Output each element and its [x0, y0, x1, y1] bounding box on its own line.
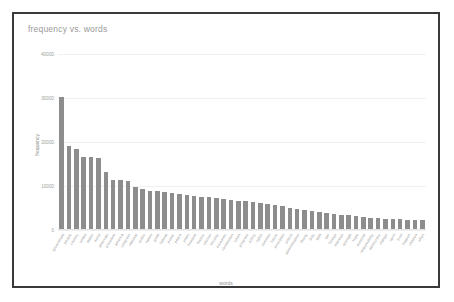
- x-label-slot: support: [404, 231, 411, 275]
- bar[interactable]: [273, 205, 278, 230]
- x-label-slot: children: [411, 231, 418, 275]
- bar[interactable]: [133, 187, 138, 230]
- bar[interactable]: [310, 211, 315, 230]
- x-label-slot: national: [132, 231, 139, 275]
- bar[interactable]: [280, 206, 285, 230]
- chart-card: frequency vs. words 01000020000300004000…: [14, 14, 438, 286]
- x-label-slot: years: [183, 231, 190, 275]
- bar-slot: [301, 54, 308, 230]
- x-axis-tick-label: peace: [174, 233, 183, 244]
- bar-slot: [397, 54, 404, 230]
- chart-frame: frequency vs. words 01000020000300004000…: [12, 12, 440, 288]
- bar[interactable]: [221, 199, 226, 230]
- bar-slot: [235, 54, 242, 230]
- bar[interactable]: [74, 149, 79, 230]
- bar[interactable]: [258, 203, 263, 230]
- bar-slot: [73, 54, 80, 230]
- bar[interactable]: [59, 97, 64, 230]
- x-label-slot: economic: [220, 231, 227, 275]
- bar-slot: [124, 54, 131, 230]
- bar[interactable]: [288, 208, 293, 230]
- bar-slot: [117, 54, 124, 230]
- bar-slot: [227, 54, 234, 230]
- x-axis-tick-label: policy: [248, 233, 257, 243]
- bar[interactable]: [207, 197, 212, 230]
- bar-series: [58, 54, 426, 230]
- bar[interactable]: [354, 216, 359, 230]
- bar[interactable]: [170, 193, 175, 230]
- bar[interactable]: [199, 197, 204, 230]
- x-label-slot: effort: [419, 231, 426, 275]
- bar[interactable]: [229, 200, 234, 230]
- bar-slot: [367, 54, 374, 230]
- bar-slot: [360, 54, 367, 230]
- bar-slot: [102, 54, 109, 230]
- bar[interactable]: [148, 191, 153, 230]
- x-axis-line: [58, 229, 426, 230]
- bar[interactable]: [332, 214, 337, 230]
- bar[interactable]: [67, 146, 72, 230]
- bar[interactable]: [346, 215, 351, 230]
- x-label-slot: congress: [124, 231, 131, 275]
- bar-slot: [139, 54, 146, 230]
- bar[interactable]: [265, 204, 270, 230]
- bar-slot: [168, 54, 175, 230]
- bar[interactable]: [295, 209, 300, 230]
- bar[interactable]: [118, 180, 123, 230]
- bar[interactable]: [96, 158, 101, 230]
- y-axis-tick-label: 20000: [41, 140, 54, 145]
- bar[interactable]: [177, 194, 182, 230]
- bar-slot: [389, 54, 396, 230]
- bar[interactable]: [126, 181, 131, 230]
- bar[interactable]: [81, 157, 86, 230]
- y-axis-title: frequency: [34, 134, 40, 156]
- bar-slot: [308, 54, 315, 230]
- bar-slot: [249, 54, 256, 230]
- x-label-slot: world: [95, 231, 102, 275]
- bar[interactable]: [236, 201, 241, 230]
- bar[interactable]: [243, 201, 248, 230]
- x-label-slot: country: [73, 231, 80, 275]
- bar[interactable]: [339, 215, 344, 230]
- bar-slot: [198, 54, 205, 230]
- bar-slot: [190, 54, 197, 230]
- bar[interactable]: [302, 210, 307, 230]
- x-label-slot: interests: [338, 231, 345, 275]
- x-label-slot: common: [264, 231, 271, 275]
- bar-slot: [271, 54, 278, 230]
- bar-slot: [132, 54, 139, 230]
- bar-slot: [65, 54, 72, 230]
- bar-slot: [176, 54, 183, 230]
- bar-slot: [213, 54, 220, 230]
- bar[interactable]: [111, 180, 116, 230]
- bar[interactable]: [251, 202, 256, 230]
- bar[interactable]: [140, 189, 145, 230]
- bar[interactable]: [214, 198, 219, 230]
- bar[interactable]: [155, 191, 160, 230]
- bar-slot: [154, 54, 161, 230]
- bar[interactable]: [89, 157, 94, 230]
- bar-slot: [161, 54, 168, 230]
- bar[interactable]: [317, 212, 322, 230]
- bar[interactable]: [192, 196, 197, 230]
- bar-slot: [316, 54, 323, 230]
- x-label-slot: progress: [242, 231, 249, 275]
- x-label-slot: faith: [316, 231, 323, 275]
- x-axis-tick-label: spirit: [388, 233, 396, 242]
- x-axis-tick-label: duty: [308, 233, 315, 241]
- bar-slot: [345, 54, 352, 230]
- y-axis-tick-label: 30000: [41, 96, 54, 101]
- bar[interactable]: [162, 192, 167, 230]
- bar-slot: [294, 54, 301, 230]
- bar[interactable]: [104, 172, 109, 230]
- bar-slot: [279, 54, 286, 230]
- x-label-slot: america: [117, 231, 124, 275]
- x-label-slot: security: [213, 231, 220, 275]
- bar[interactable]: [324, 213, 329, 230]
- x-axis-title: words: [14, 280, 438, 286]
- bar-slot: [404, 54, 411, 230]
- bar[interactable]: [185, 195, 190, 230]
- bar-slot: [110, 54, 117, 230]
- bar-slot: [205, 54, 212, 230]
- x-label-slot: law: [323, 231, 330, 275]
